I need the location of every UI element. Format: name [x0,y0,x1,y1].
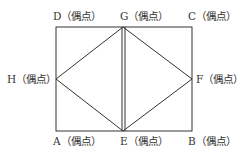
edge-g-f [123,27,192,79]
vertex-label-a: A（偶点） [53,136,101,147]
edge-f-e [123,79,192,131]
vertex-label-c: C（偶点） [188,11,236,22]
edge-h-e [56,79,123,131]
outer-rectangle [56,27,192,131]
edge-h-g [56,27,123,79]
vertex-label-d: D（偶点） [53,11,101,22]
vertex-label-b: B（偶点） [188,136,236,147]
vertex-label-g: G（偶点） [120,11,168,22]
vertex-label-f: F（偶点） [196,74,243,85]
vertex-label-h: H（偶点） [7,74,56,85]
vertex-label-e: E（偶点） [120,136,168,147]
